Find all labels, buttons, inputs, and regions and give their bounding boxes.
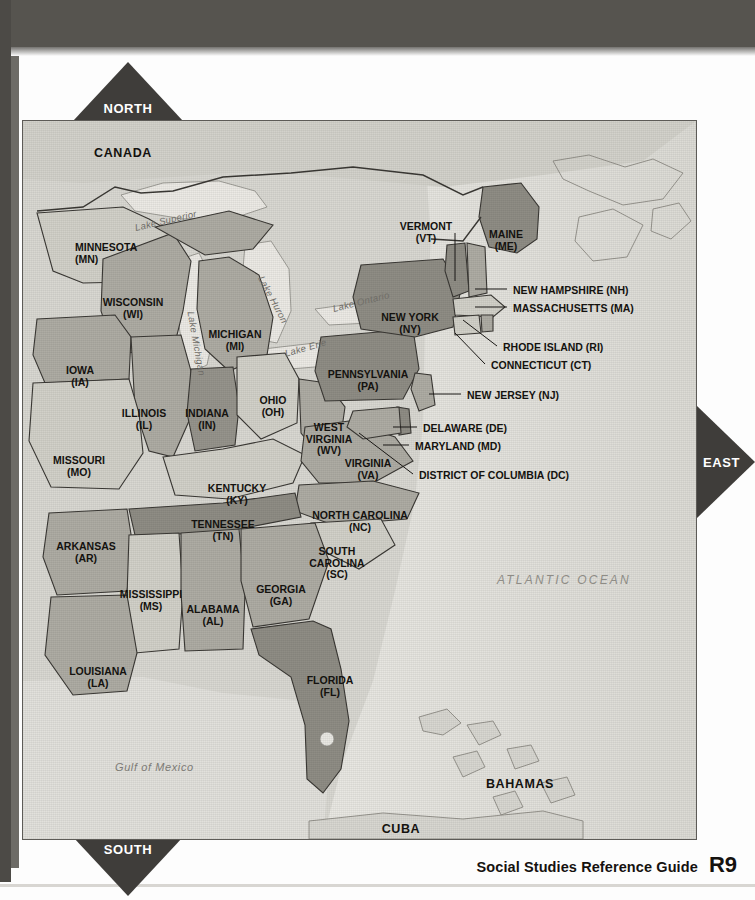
state-label-in: INDIANA (IN)	[185, 408, 229, 431]
state-label-nc: NORTH CAROLINA (NC)	[312, 510, 408, 533]
gulf-label-gulf-of-mexico: Gulf of Mexico	[115, 761, 194, 773]
state-label-la: LOUISIANA (LA)	[69, 666, 127, 689]
scanned-page: NORTH SOUTH EAST	[0, 0, 755, 900]
country-label-canada: CANADA	[94, 148, 152, 160]
compass-arrow-east: EAST	[697, 406, 755, 518]
state-label-mn: MINNESOTA (MN)	[75, 242, 137, 265]
callout-label-nh: NEW HAMPSHIRE (NH)	[513, 285, 629, 297]
page-left-shadow-strip	[11, 56, 19, 868]
page-left-binding-edge	[0, 0, 11, 882]
state-label-ny: NEW YORK (NY)	[381, 312, 439, 335]
callout-label-ct: CONNECTICUT (CT)	[491, 360, 591, 372]
callout-label-dc: DISTRICT OF COLUMBIA (DC)	[419, 470, 569, 482]
country-label-bahamas: BAHAMAS	[486, 779, 554, 791]
compass-arrow-south: SOUTH	[73, 837, 183, 896]
gulf-of-mexico-area	[23, 677, 333, 839]
state-label-wi: WISCONSIN (WI)	[103, 297, 164, 320]
state-label-ar: ARKANSAS (AR)	[56, 541, 116, 564]
callout-label-nj: NEW JERSEY (NJ)	[467, 390, 559, 402]
callout-label-ma: MASSACHUSETTS (MA)	[513, 303, 634, 315]
state-label-ga: GEORGIA (GA)	[256, 584, 306, 607]
ocean-label-atlantic-ocean: ATLANTIC OCEAN	[497, 573, 631, 587]
footer-title: Social Studies Reference Guide	[476, 859, 697, 875]
state-label-mo: MISSOURI (MO)	[53, 455, 105, 478]
state-label-il: ILLINOIS (IL)	[122, 408, 166, 431]
state-label-ia: IOWA (IA)	[66, 365, 94, 388]
state-label-pa: PENNSYLVANIA (PA)	[328, 369, 409, 392]
callout-label-de: DELAWARE (DE)	[423, 423, 507, 435]
state-label-mi: MICHIGAN (MI)	[208, 329, 261, 352]
page-footer: Social Studies Reference Guide R9	[476, 852, 737, 878]
compass-arrow-north: NORTH	[73, 62, 183, 121]
page-top-band	[0, 0, 755, 47]
compass-south-label: SOUTH	[104, 842, 153, 857]
state-label-ms: MISSISSIPPI (MS)	[120, 589, 182, 612]
callout-label-ri: RHODE ISLAND (RI)	[503, 342, 603, 354]
callout-label-md: MARYLAND (MD)	[415, 441, 501, 453]
state-label-fl: FLORIDA (FL)	[307, 675, 354, 698]
page-bottom-edge	[0, 884, 755, 887]
footer-page-number: R9	[709, 852, 737, 878]
state-label-wv: WEST VIRGINIA (WV)	[306, 422, 353, 457]
country-label-cuba: CUBA	[382, 824, 421, 836]
state-label-al: ALABAMA (AL)	[186, 604, 239, 627]
compass-north-label: NORTH	[103, 101, 152, 116]
compass-east-label: EAST	[703, 455, 740, 470]
map-canvas: CANADABAHAMASCUBA ATLANTIC OCEANGulf of …	[22, 120, 697, 840]
state-label-oh: OHIO (OH)	[260, 395, 287, 418]
state-label-vt: VERMONT (VT)	[400, 221, 453, 244]
state-label-tn: TENNESSEE (TN)	[191, 519, 255, 542]
state-label-me: MAINE (ME)	[489, 229, 523, 252]
state-label-sc: SOUTH CAROLINA (SC)	[309, 546, 364, 581]
state-label-ky: KENTUCKY (KY)	[208, 483, 266, 506]
state-label-va: VIRGINIA (VA)	[345, 458, 392, 481]
